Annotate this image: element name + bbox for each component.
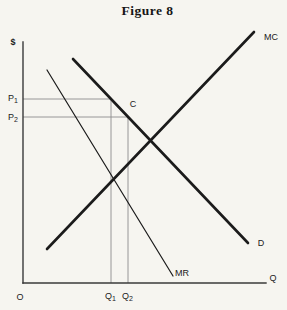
y-axis-label: $ bbox=[10, 37, 15, 47]
price-p1-label: P1 bbox=[8, 93, 18, 104]
marginal-cost-curve-label: MC bbox=[264, 32, 278, 42]
price-p2-label: P2 bbox=[8, 112, 18, 123]
figure-8-page: Figure 8 MCDMR$OQP1P2Q1Q2C bbox=[0, 0, 287, 310]
origin-label: O bbox=[16, 292, 23, 302]
economics-diagram-canvas: MCDMR$OQP1P2Q1Q2C bbox=[0, 0, 287, 310]
quantity-q1-label: Q1 bbox=[105, 291, 116, 302]
marginal-revenue-curve bbox=[47, 70, 173, 276]
point-c-label: C bbox=[130, 99, 137, 109]
x-axis-label: Q bbox=[269, 273, 276, 283]
demand-curve bbox=[73, 59, 248, 243]
marginal-revenue-curve-label: MR bbox=[175, 268, 189, 278]
quantity-q2-label: Q2 bbox=[122, 291, 133, 302]
demand-curve-label: D bbox=[258, 238, 265, 248]
